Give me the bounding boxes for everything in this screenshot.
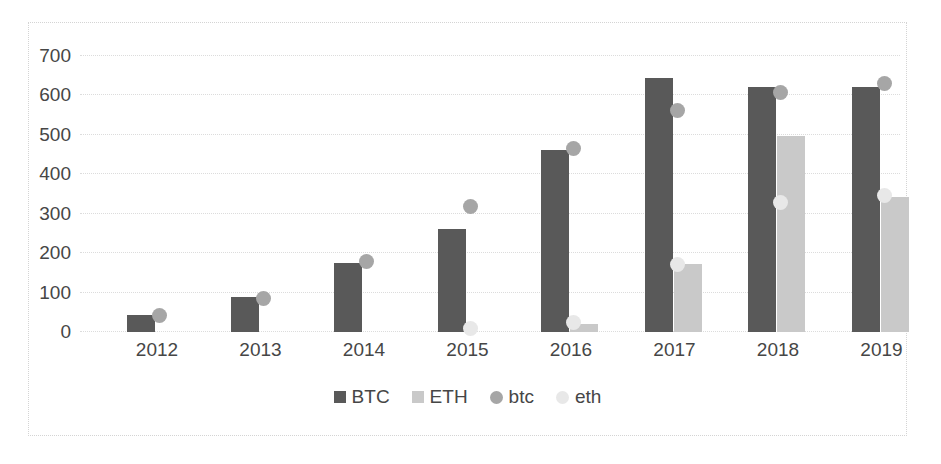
x-axis-tick-label: 2015 [433, 339, 503, 361]
legend-circle-icon [556, 391, 569, 404]
x-axis-tick-label: 2019 [847, 339, 917, 361]
y-axis-tick-label: 0 [60, 321, 71, 343]
y-axis-tick-label: 300 [39, 202, 71, 224]
bar-btc[interactable] [852, 87, 880, 332]
bar-series-group [80, 34, 908, 332]
marker-btc[interactable] [877, 76, 892, 91]
legend-item[interactable]: btc [490, 386, 534, 408]
marker-eth[interactable] [773, 195, 788, 210]
y-axis-tick-label: 700 [39, 45, 71, 67]
bar-group [748, 34, 808, 332]
marker-btc[interactable] [359, 254, 374, 269]
bar-btc[interactable] [127, 315, 155, 332]
bar-group [852, 34, 912, 332]
bar-group [645, 34, 705, 332]
y-axis-tick-label: 100 [39, 281, 71, 303]
legend-square-icon [334, 391, 346, 403]
legend-label: BTC [352, 386, 390, 408]
plot-area: 0100200300400500600700 20122013201420152… [80, 34, 908, 332]
legend-item[interactable]: BTC [334, 386, 390, 408]
legend-label: ETH [430, 386, 468, 408]
y-axis-tick-label: 400 [39, 163, 71, 185]
x-axis-tick-label: 2017 [640, 339, 710, 361]
bar-btc[interactable] [231, 297, 259, 332]
bar-btc[interactable] [438, 229, 466, 332]
marker-btc[interactable] [566, 141, 581, 156]
x-axis-tick-label: 2016 [536, 339, 606, 361]
marker-eth[interactable] [877, 188, 892, 203]
bar-btc[interactable] [645, 78, 673, 332]
bar-group [334, 34, 394, 332]
marker-btc[interactable] [463, 199, 478, 214]
marker-btc[interactable] [670, 103, 685, 118]
legend-circle-icon [490, 391, 503, 404]
x-axis-tick-label: 2013 [226, 339, 296, 361]
marker-btc[interactable] [256, 291, 271, 306]
bar-group [231, 34, 291, 332]
bar-eth[interactable] [777, 136, 805, 332]
bar-group [127, 34, 187, 332]
marker-eth[interactable] [463, 321, 478, 336]
bar-eth[interactable] [881, 197, 909, 332]
marker-btc[interactable] [773, 85, 788, 100]
y-axis-tick-label: 200 [39, 242, 71, 264]
x-axis-tick-label: 2012 [122, 339, 192, 361]
chart-legend: BTCETHbtceth [29, 386, 906, 408]
bar-btc[interactable] [541, 150, 569, 332]
y-axis-tick-label: 600 [39, 84, 71, 106]
bar-group [541, 34, 601, 332]
marker-eth[interactable] [670, 257, 685, 272]
legend-item[interactable]: eth [556, 386, 601, 408]
bar-group [438, 34, 498, 332]
y-axis-tick-label: 500 [39, 123, 71, 145]
legend-item[interactable]: ETH [412, 386, 468, 408]
legend-label: eth [575, 386, 601, 408]
bar-btc[interactable] [748, 87, 776, 332]
bar-eth[interactable] [674, 264, 702, 332]
x-axis-tick-label: 2014 [329, 339, 399, 361]
marker-btc[interactable] [152, 308, 167, 323]
bar-btc[interactable] [334, 263, 362, 332]
chart-container: 0100200300400500600700 20122013201420152… [28, 22, 907, 436]
x-axis-tick-label: 2018 [743, 339, 813, 361]
legend-label: btc [509, 386, 534, 408]
legend-square-icon [412, 391, 424, 403]
